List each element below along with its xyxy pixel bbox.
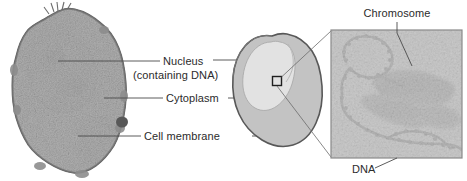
- label-nucleus-sublabel: (containing DNA): [133, 69, 218, 81]
- label-chromosome: Chromosome: [363, 7, 430, 19]
- dense-granule: [116, 117, 128, 128]
- cell-structure-figure: Nucleus (containing DNA) Cytoplasm Cell …: [0, 0, 467, 181]
- cell-micrograph-graphic: [0, 0, 140, 181]
- cell-schematic-graphic: [233, 34, 323, 147]
- chromosome-photo-graphic: [330, 22, 467, 168]
- label-cell-membrane: Cell membrane: [144, 130, 220, 142]
- label-dna: DNA: [352, 163, 376, 175]
- leader-dna: [375, 158, 397, 168]
- label-nucleus: Nucleus: [163, 55, 203, 67]
- figure-canvas: [0, 0, 467, 181]
- label-cytoplasm: Cytoplasm: [166, 92, 219, 104]
